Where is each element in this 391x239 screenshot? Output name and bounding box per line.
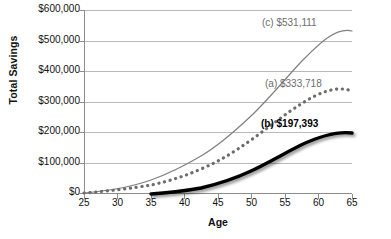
series-label-a: (a) $333,718 (265, 78, 322, 89)
series-label-b: (b) $197,393 (261, 118, 318, 129)
plot-area (0, 0, 391, 239)
savings-growth-chart: Total Savings $600,000 $500,000 $400,000… (0, 0, 391, 239)
y-axis-ticks (79, 11, 84, 194)
x-axis-ticks (84, 194, 352, 199)
series-label-c: (c) $531,111 (262, 17, 317, 28)
series-line-c (84, 30, 352, 193)
